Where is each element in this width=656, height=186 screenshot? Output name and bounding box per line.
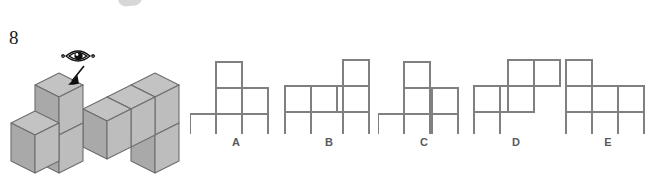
option-d-net (470, 50, 562, 134)
option-a[interactable]: A (190, 50, 282, 168)
option-b[interactable]: B (283, 50, 375, 168)
option-b-net (283, 50, 375, 134)
option-e-label: E (562, 136, 654, 148)
eye-icon (62, 51, 95, 61)
option-d-label: D (470, 136, 562, 148)
option-c-net (378, 50, 470, 134)
viewpoint-indicator (58, 44, 122, 92)
option-a-net (190, 50, 282, 134)
option-c[interactable]: C (378, 50, 470, 168)
option-e[interactable]: E (562, 50, 654, 168)
option-e-net (562, 50, 654, 134)
arrow-down-left-icon (70, 66, 84, 84)
option-b-label: B (283, 136, 375, 148)
option-d[interactable]: D (470, 50, 562, 168)
puzzle-page: 8 (0, 0, 656, 186)
option-a-label: A (190, 136, 282, 148)
stray-mark-artifact (117, 0, 143, 7)
option-c-label: C (378, 136, 470, 148)
answer-options: A B (190, 50, 656, 170)
